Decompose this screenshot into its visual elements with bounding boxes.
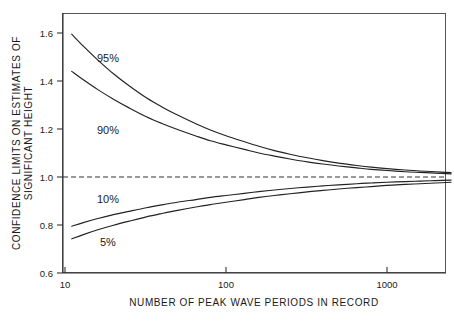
curve-label-95: 95% bbox=[97, 52, 119, 64]
y-tick-label-0.8: 0.8 bbox=[40, 220, 53, 231]
y-tick-label-0.6: 0.6 bbox=[40, 268, 53, 279]
x-tick-label-100: 100 bbox=[218, 279, 234, 290]
chart-background bbox=[0, 0, 454, 322]
y-tick-label-1.2: 1.2 bbox=[40, 124, 53, 135]
y-tick-label-1.6: 1.6 bbox=[40, 28, 53, 39]
curve-label-10: 10% bbox=[97, 193, 119, 205]
x-tick-label-10: 10 bbox=[60, 279, 71, 290]
y-tick-label-1.4: 1.4 bbox=[40, 76, 53, 87]
x-axis-title: NUMBER OF PEAK WAVE PERIODS IN RECORD bbox=[129, 297, 378, 308]
curve-label-5: 5% bbox=[100, 236, 116, 248]
y-tick-label-1.0: 1.0 bbox=[40, 172, 53, 183]
x-tick-label-1000: 1000 bbox=[376, 279, 397, 290]
y-axis-title-line1: CONFIDENCE LIMITS ON ESTIMATES OF bbox=[11, 36, 22, 250]
confidence-limits-chart: 1.6 1.4 1.2 1.0 0.8 0.6 10 100 1000 95% … bbox=[0, 0, 454, 322]
curve-label-90: 90% bbox=[97, 124, 119, 136]
figure-container: 1.6 1.4 1.2 1.0 0.8 0.6 10 100 1000 95% … bbox=[0, 0, 454, 322]
y-axis-title-line2: SIGNIFICANT HEIGHT bbox=[23, 86, 34, 201]
